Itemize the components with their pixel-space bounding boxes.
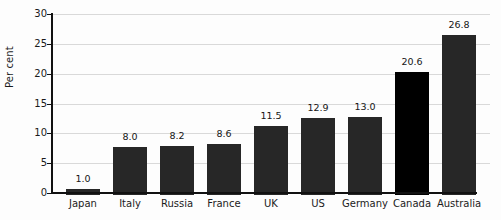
x-axis-category-label: Russia <box>150 198 204 210</box>
x-axis-category-label: UK <box>244 198 298 210</box>
y-axis-tick-mark <box>47 193 51 194</box>
bar-canada <box>395 72 429 195</box>
y-axis-tick-label: 15 <box>27 99 47 109</box>
bar-value-label: 8.6 <box>201 129 247 139</box>
x-axis-category-label: Canada <box>385 198 439 210</box>
bar-italy <box>113 147 147 195</box>
y-axis-tick-mark <box>47 44 51 45</box>
y-axis-line <box>51 13 53 194</box>
y-axis-tick-mark <box>47 133 51 134</box>
y-axis-tick-label: 30 <box>27 9 47 19</box>
y-axis-tick-label: 5 <box>27 158 47 168</box>
bar-value-label: 1.0 <box>60 174 106 184</box>
y-axis-tick-mark <box>47 74 51 75</box>
bar-value-label: 12.9 <box>295 103 341 113</box>
bar-value-label: 8.2 <box>154 131 200 141</box>
bar-chart: Per cent 051015202530 1.0Japan8.0Italy8.… <box>0 0 501 220</box>
x-axis-category-label: Germany <box>338 198 392 210</box>
x-axis-line <box>51 192 477 194</box>
gridline <box>51 14 490 15</box>
x-axis-category-label: US <box>291 198 345 210</box>
x-axis-category-label: Italy <box>103 198 157 210</box>
y-axis-title: Per cent <box>4 8 22 88</box>
bar-value-label: 8.0 <box>107 132 153 142</box>
y-axis-tick-label: 20 <box>27 69 47 79</box>
y-axis-tick-labels: 051015202530 <box>25 0 47 220</box>
x-axis-category-label: Australia <box>432 198 486 210</box>
plot-area <box>51 14 490 194</box>
bar-value-label: 13.0 <box>342 102 388 112</box>
bar-germany <box>348 117 382 195</box>
y-axis-tick-mark <box>47 163 51 164</box>
y-axis-tick-label: 10 <box>27 128 47 138</box>
x-axis-category-label: Japan <box>56 198 110 210</box>
bar-france <box>207 144 241 195</box>
bar-russia <box>160 146 194 195</box>
x-axis-category-label: France <box>197 198 251 210</box>
y-axis-tick-mark <box>47 104 51 105</box>
gridline <box>51 44 490 45</box>
bar-value-label: 11.5 <box>248 111 294 121</box>
bar-value-label: 20.6 <box>389 57 435 67</box>
bar-us <box>301 118 335 195</box>
bar-uk <box>254 126 288 195</box>
y-axis-tick-mark <box>47 14 51 15</box>
bar-australia <box>442 35 476 195</box>
bar-value-label: 26.8 <box>436 20 482 30</box>
y-axis-tick-label: 25 <box>27 39 47 49</box>
y-axis-tick-label: 0 <box>27 188 47 198</box>
